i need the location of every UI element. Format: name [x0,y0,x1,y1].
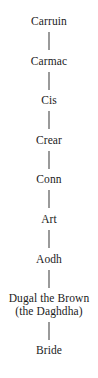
node-label: Crear [0,134,98,147]
connector-line [48,270,50,288]
connector-line [48,72,50,90]
lineage-node-bride: Bride [0,344,98,357]
connector-line [48,230,50,248]
node-label: Cis [0,94,98,107]
lineage-node-art: Art [0,213,98,226]
lineage-node-carruin: Carruin [0,15,98,28]
node-label: Conn [0,173,98,186]
node-label: Carruin [0,15,98,28]
lineage-node-aodh: Aodh [0,253,98,266]
lineage-node-cis: Cis [0,94,98,107]
lineage-diagram: Carruin Carmac Cis Crear Conn Art Aodh D… [0,0,98,378]
node-label: Aodh [0,253,98,266]
connector-line [48,111,50,129]
node-label-secondary: (the Daghdha) [0,305,98,318]
lineage-node-carmac: Carmac [0,55,98,68]
node-label: Bride [0,344,98,357]
connector-line [48,190,50,208]
connector-line [48,322,50,340]
lineage-node-dugal-the-brown: Dugal the Brown (the Daghdha) [0,292,98,317]
node-label: Dugal the Brown [0,292,98,305]
connector-line [48,32,50,50]
lineage-node-conn: Conn [0,173,98,186]
node-label: Art [0,213,98,226]
connector-line [48,151,50,169]
node-label: Carmac [0,55,98,68]
lineage-node-crear: Crear [0,134,98,147]
